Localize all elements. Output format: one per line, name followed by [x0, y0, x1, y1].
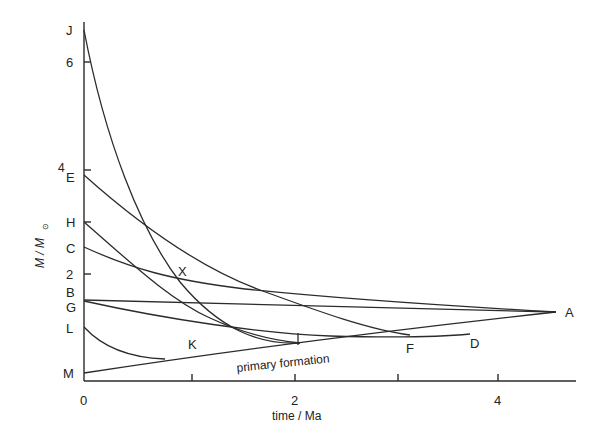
label-A: A	[565, 305, 574, 320]
evolution-chart: J 6 4 E H C 2 B G L M A D F K X primary …	[0, 0, 606, 446]
y-tick-label-6: 6	[66, 55, 73, 70]
y-axis-label: M / M ⊙	[33, 223, 50, 268]
sun-symbol: ⊙	[41, 223, 50, 230]
label-D: D	[470, 336, 479, 351]
y-tick-label-2: 2	[66, 267, 73, 282]
x-tick-label-4: 4	[494, 393, 501, 408]
label-H: H	[66, 215, 75, 230]
label-J: J	[66, 23, 73, 38]
y-axis-label-text: M / M	[33, 238, 47, 268]
primary-formation-label: primary formation	[236, 351, 330, 375]
curve-B	[84, 300, 556, 312]
x-tick-label-0: 0	[80, 393, 87, 408]
label-K: K	[188, 337, 197, 352]
label-X: X	[178, 264, 187, 279]
label-E: E	[66, 170, 75, 185]
curve-G	[84, 301, 470, 337]
x-tick-label-2: 2	[291, 393, 298, 408]
label-M: M	[63, 366, 74, 381]
label-B: B	[66, 285, 75, 300]
x-axis-label: time / Ma	[272, 409, 322, 423]
label-G: G	[66, 300, 76, 315]
curve-L	[84, 327, 165, 359]
label-L: L	[66, 321, 73, 336]
y-tick-label-4: 4	[58, 161, 65, 175]
curve-H	[84, 222, 300, 343]
label-F: F	[406, 341, 414, 356]
label-C: C	[66, 241, 75, 256]
curve-J	[84, 30, 300, 343]
